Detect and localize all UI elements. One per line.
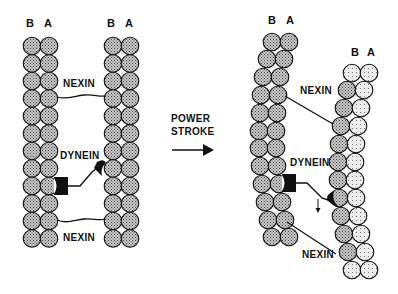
before-nexin-bottom-link — [57, 219, 105, 222]
after-right-b-label: B — [351, 46, 359, 58]
after-nexin-bottom-label: NEXIN — [302, 249, 334, 260]
before-left-a-label: A — [44, 17, 52, 29]
power-label: POWER — [171, 113, 210, 124]
before-dynein-arm — [54, 160, 106, 195]
after-left-a-label: A — [286, 14, 294, 26]
after-left-doublet — [250, 33, 298, 246]
after-nexin-top-label: NEXIN — [300, 85, 332, 96]
stroke-label: STROKE — [171, 126, 214, 137]
before-left-b-label: B — [26, 17, 34, 29]
before-dynein-label: DYNEIN — [60, 150, 100, 161]
before-nexin-top-label: NEXIN — [63, 78, 95, 89]
down-arrow-icon — [316, 199, 321, 213]
before-nexin-bottom-label: NEXIN — [63, 232, 95, 243]
before-left-doublet — [23, 37, 58, 247]
after-nexin-top-link — [285, 96, 333, 124]
after-left-b-label: B — [268, 14, 276, 26]
after-right-doublet — [329, 64, 378, 279]
diagram-canvas — [0, 0, 398, 294]
before-right-a-label: A — [125, 17, 133, 29]
after-dynein-label: DYNEIN — [290, 157, 330, 168]
before-nexin-top-link — [57, 95, 105, 98]
before-right-doublet — [104, 37, 139, 247]
after-right-a-label: A — [367, 46, 375, 58]
right-arrow-icon — [172, 144, 214, 156]
before-right-b-label: B — [107, 17, 115, 29]
